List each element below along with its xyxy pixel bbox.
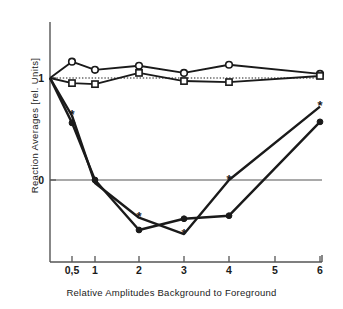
data-point-open-square (92, 81, 98, 87)
series-filled-circle-series (50, 78, 323, 233)
x-tick-label-0-5: 0,5 (65, 264, 80, 276)
y-tick-label-0: 0 (30, 174, 44, 186)
x-axis-label: Relative Amplitudes Background to Foregr… (0, 287, 343, 298)
data-point-open-circle (69, 58, 76, 65)
x-tick-label-2: 2 (136, 264, 142, 276)
y-tick-label-1: 1 (30, 72, 44, 84)
data-point-open-square (317, 73, 323, 79)
series-open-circle-series (50, 58, 323, 78)
data-point-asterisk: * (181, 226, 187, 241)
data-point-filled-circle (317, 119, 323, 125)
data-point-open-circle (92, 67, 99, 74)
data-point-open-square (226, 79, 232, 85)
data-point-filled-circle (226, 213, 232, 219)
x-tick-label-5: 5 (272, 264, 278, 276)
data-point-open-square (69, 80, 75, 86)
x-tick-label-3: 3 (181, 264, 187, 276)
data-point-open-circle (226, 61, 233, 68)
data-point-asterisk: * (317, 98, 323, 113)
x-tick-label-6: 6 (317, 264, 323, 276)
x-tick-label-4: 4 (226, 264, 232, 276)
series-line-filled-circle-series (50, 78, 320, 230)
data-point-filled-circle (136, 227, 142, 233)
data-point-filled-circle (181, 216, 187, 222)
data-point-open-square (136, 70, 142, 76)
data-point-open-square (181, 78, 187, 84)
y-axis-label: Reaction Averages [rel. Units] (29, 31, 40, 221)
chart-figure: ****** Reaction Averages [rel. Units] Re… (0, 0, 343, 309)
series-line-asterisk-series (50, 78, 320, 234)
data-point-asterisk: * (136, 209, 142, 224)
data-point-open-circle (136, 62, 143, 69)
reaction-averages-line-chart: ****** (0, 0, 343, 309)
data-point-open-circle (181, 70, 188, 77)
x-tick-label-1: 1 (92, 264, 98, 276)
